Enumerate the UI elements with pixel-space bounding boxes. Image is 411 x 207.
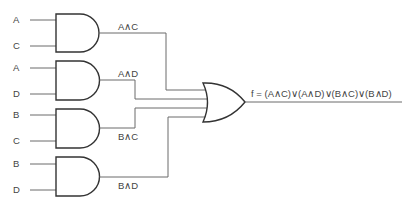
wire-and3-to-or [100,108,208,128]
and-gate-4: B D [13,157,100,196]
input-label-d4: D [13,184,20,195]
and-gate-2: A D [13,61,100,100]
and-gate-4-shape [56,157,100,196]
input-label-b3: B [13,109,19,120]
and-gate-1-shape [56,14,99,52]
input-label-c3: C [13,135,20,146]
and-gate-2-shape [56,61,100,100]
input-label-b4: B [13,158,19,169]
and1-output-label: A∧C [118,21,138,32]
logic-circuit-diagram: A C A D B C B D A∧C A∧D B∧C B∧D f = (A∧C… [0,0,411,207]
and3-output-label: B∧C [118,131,138,142]
output-expression: f = (A∧C)∨(A∧D)∨(B∧C)∨(B∧D) [251,88,392,99]
input-label-c1: C [13,40,20,51]
and-gate-1: A C [13,14,99,52]
input-label-a1: A [13,14,20,25]
and4-output-label: B∧D [118,180,138,191]
input-label-d2: D [13,88,20,99]
wire-and1-to-or [99,33,208,90]
and2-output-label: A∧D [118,68,138,79]
and-gate-3-shape [56,109,100,148]
and-gate-3: B C [13,109,100,148]
input-label-a2: A [13,62,20,73]
wire-and4-to-or [100,117,209,177]
or-gate [203,83,245,122]
